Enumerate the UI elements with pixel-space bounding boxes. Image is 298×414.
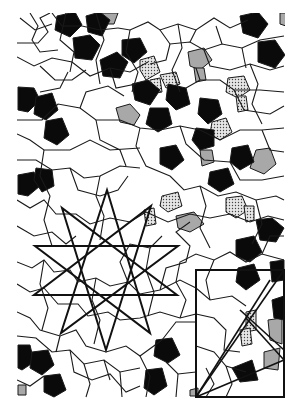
gray-tile — [268, 318, 282, 344]
black-pentagon — [272, 296, 284, 320]
gray-tile — [18, 385, 26, 395]
tiling-canvas — [0, 0, 298, 414]
tiling-figure — [0, 0, 298, 414]
dotted-tile — [244, 206, 254, 222]
